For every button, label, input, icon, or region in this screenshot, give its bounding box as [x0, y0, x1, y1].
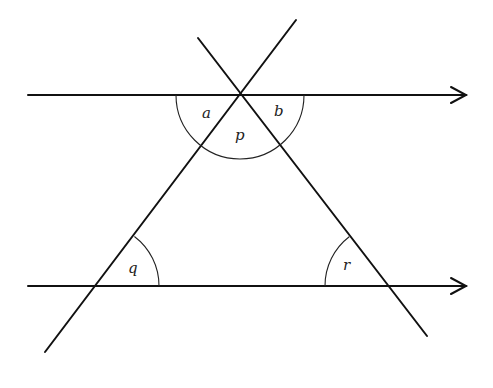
geometry-diagram: a b p q r — [0, 0, 493, 388]
angle-label-a: a — [202, 104, 211, 122]
angle-arc-q — [134, 237, 159, 287]
angle-label-q: q — [128, 259, 138, 277]
left-transversal — [45, 20, 296, 352]
angle-label-b: b — [274, 102, 284, 120]
right-transversal — [198, 38, 427, 336]
angle-label-r: r — [343, 256, 351, 274]
angle-label-p: p — [235, 126, 245, 144]
